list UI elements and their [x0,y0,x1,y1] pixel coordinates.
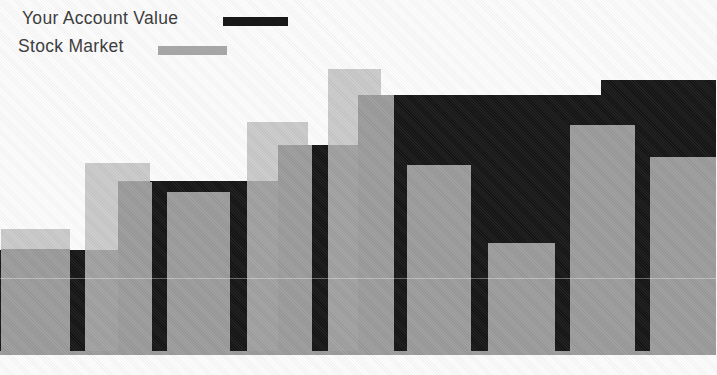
stock-market-bar [1,249,70,355]
legend-label-stock-market: Stock Market [18,38,124,56]
stock-market-bar [570,125,635,355]
legend: Your Account Value Stock Market [0,0,320,60]
stock-market-bar [488,243,555,355]
scan-artifact-line [0,278,716,279]
account-value-area-segment [358,95,601,352]
chart-baseline-band [0,351,716,355]
account-value-swatch [223,17,288,26]
stock-market-bar [650,157,716,355]
stock-market-bar [407,165,471,355]
stock-market-bar [278,145,312,355]
legend-label-account-value: Your Account Value [22,10,178,28]
stock-market-bar [167,192,230,355]
stock-market-swatch [158,46,227,55]
stock-market-bar [118,182,152,355]
scanned-chart-figure: Your Account Value Stock Market [0,0,717,375]
stock-market-bar [358,95,394,355]
